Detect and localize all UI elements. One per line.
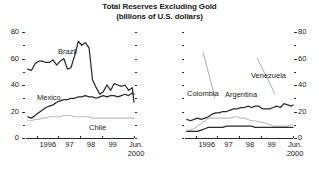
- y-tick-inner: [135, 72, 137, 73]
- y-tick-major: [22, 85, 25, 86]
- y-tick-inner: [182, 98, 184, 99]
- y-tick-minor: [23, 72, 25, 73]
- panel-left: 806040200 1996979899Jun.2000 Brazil Mexi…: [4, 28, 156, 158]
- line-chile: [28, 115, 134, 120]
- y-tick-inner: [135, 32, 137, 33]
- x-axis-label-year: 2000: [121, 150, 151, 158]
- y-tick-inner: [182, 112, 184, 113]
- plot-area-left: [26, 32, 134, 138]
- y-tick-minor: [23, 125, 25, 126]
- y-axis-label: 40: [5, 81, 19, 89]
- y-tick-inner: [135, 98, 137, 99]
- y-tick-inner: [182, 32, 184, 33]
- y-tick-inner: [135, 45, 137, 46]
- y-tick-minor: [23, 98, 25, 99]
- y-axis-label: 60: [5, 55, 19, 63]
- y-tick-major: [294, 59, 297, 60]
- series-label-venezuela: Venezuela: [251, 72, 286, 80]
- chart-subtitle: (billions of U.S. dollars): [0, 12, 319, 22]
- x-axis-line: [185, 138, 293, 139]
- x-tick: [293, 136, 294, 138]
- y-tick-minor: [294, 72, 296, 73]
- y-tick-inner: [182, 125, 184, 126]
- series-label-brazil: Brazil: [58, 48, 77, 56]
- y-tick-major: [22, 32, 25, 33]
- y-tick-minor: [294, 98, 296, 99]
- y-tick-major: [22, 59, 25, 60]
- y-tick-major: [22, 138, 25, 139]
- x-tick: [102, 136, 103, 138]
- y-tick-inner: [182, 59, 184, 60]
- x-tick: [217, 136, 218, 138]
- x-axis-label-year: 2000: [280, 150, 310, 158]
- y-axis-label: 80: [298, 28, 312, 36]
- y-tick-major: [294, 85, 297, 86]
- y-axis-label: 40: [298, 81, 312, 89]
- x-axis-line: [26, 138, 134, 139]
- x-tick: [80, 136, 81, 138]
- y-tick-major: [294, 112, 297, 113]
- series-lines-right: [185, 32, 293, 138]
- figure: Total Reserves Excluding Gold (billions …: [0, 0, 319, 176]
- x-tick: [196, 136, 197, 138]
- y-axis-label: 20: [298, 108, 312, 116]
- y-tick-inner: [135, 85, 137, 86]
- y-tick-minor: [294, 125, 296, 126]
- plot-area-right: [185, 32, 293, 138]
- x-tick: [239, 136, 240, 138]
- y-tick-major: [294, 138, 297, 139]
- y-axis-label: 80: [5, 28, 19, 36]
- y-tick-inner: [135, 112, 137, 113]
- series-label-argentina: Argentina: [225, 91, 257, 99]
- series-lines-left: [26, 32, 134, 138]
- y-tick-minor: [23, 45, 25, 46]
- y-axis-label: 20: [5, 108, 19, 116]
- x-tick: [58, 136, 59, 138]
- y-tick-inner: [182, 85, 184, 86]
- y-tick-inner: [135, 125, 137, 126]
- y-tick-inner: [182, 138, 184, 139]
- x-axis-label: Jun.: [280, 141, 310, 149]
- y-axis-label: 60: [298, 55, 312, 63]
- line-colombia: [187, 126, 293, 131]
- series-label-chile: Chile: [89, 124, 106, 132]
- source-note: [4, 167, 315, 176]
- chart-title: Total Reserves Excluding Gold: [0, 2, 319, 12]
- panel-right: 806040200 1996979899Jun.2000 Colombia Ar…: [163, 28, 315, 158]
- y-tick-major: [294, 32, 297, 33]
- x-tick: [37, 136, 38, 138]
- series-label-mexico: Mexico: [37, 94, 61, 102]
- y-tick-major: [22, 112, 25, 113]
- x-tick: [261, 136, 262, 138]
- y-tick-inner: [135, 138, 137, 139]
- y-tick-inner: [182, 72, 184, 73]
- y-tick-minor: [294, 45, 296, 46]
- y-tick-inner: [135, 59, 137, 60]
- y-axis-label: 0: [5, 134, 19, 142]
- x-tick: [134, 136, 135, 138]
- series-label-colombia: Colombia: [187, 90, 219, 98]
- x-axis-label: Jun.: [121, 141, 151, 149]
- y-tick-inner: [182, 45, 184, 46]
